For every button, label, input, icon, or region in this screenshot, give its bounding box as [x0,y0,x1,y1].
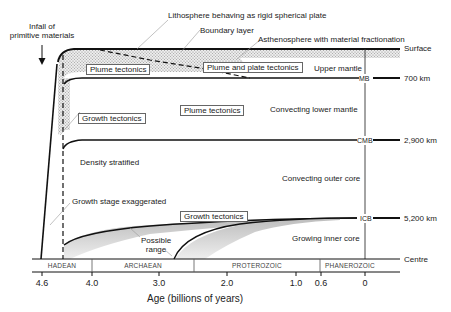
tick-4-0: 4.0 [80,278,104,288]
possible-range-label: Possible range [136,236,176,254]
boundary-layer-label: Boundary layer [200,26,254,35]
growth-stage-label: Growth stage exaggerated [72,197,166,206]
outer-core-label: Convecting outer core [282,174,360,183]
era-archaean: ARCHAEAN [92,262,194,269]
plume-and-plate-tectonics-box: Plume and plate tectonics [203,62,303,73]
centre-label: Centre [404,255,428,264]
tick-2-0: 2.0 [215,278,239,288]
cmb-abbr: CMB [357,136,373,145]
tick-4-6: 4.6 [30,278,54,288]
mb-abbr: MB [359,74,370,83]
plume-tectonics-upper-box: Plume tectonics [86,64,150,75]
cmb-line [63,140,357,149]
era-hadean: HADEAN [32,262,92,269]
tick-3-0: 3.0 [147,278,171,288]
tick-1-0: 1.0 [284,278,308,288]
possible-range-line2: range [136,245,176,254]
icb-abbr: ICB [360,214,372,223]
possible-range-line1: Possible [136,236,176,245]
growth-tectonics-upper-box: Growth tectonics [78,113,146,124]
icb-depth: 5,200 km [404,214,437,223]
upper-mantle-label: Upper mantle [314,64,362,73]
density-stratified-label: Density stratified [80,158,139,167]
plume-tectonics-lower-box: Plume tectonics [180,105,244,116]
tick-0: 0 [353,278,377,288]
lower-mantle-label: Convecting lower mantle [270,105,358,114]
cmb-depth: 2,900 km [404,136,437,145]
surface-label: Surface [404,44,432,53]
infall-label-line2: primitive materials [8,31,76,40]
asthenosphere-label: Asthenosphere with material fractionatio… [258,35,405,44]
inner-core-label: Growing inner core [292,234,360,243]
tick-0-6: 0.6 [309,278,333,288]
lithosphere-label: Lithosphere behaving as rigid spherical … [168,11,326,20]
infall-label-line1: Infall of [8,22,76,31]
accretion-line [41,64,57,259]
x-axis-title: Age (billions of years) [147,293,243,304]
mb-line [64,78,360,84]
era-phanerozoic: PHANEROZOIC [320,262,380,269]
era-proterozoic: PROTEROZOIC [194,262,320,269]
mb-depth: 700 km [404,74,430,83]
infall-label: Infall of primitive materials [8,22,76,40]
growth-tectonics-lower-box: Growth tectonics [180,211,248,222]
